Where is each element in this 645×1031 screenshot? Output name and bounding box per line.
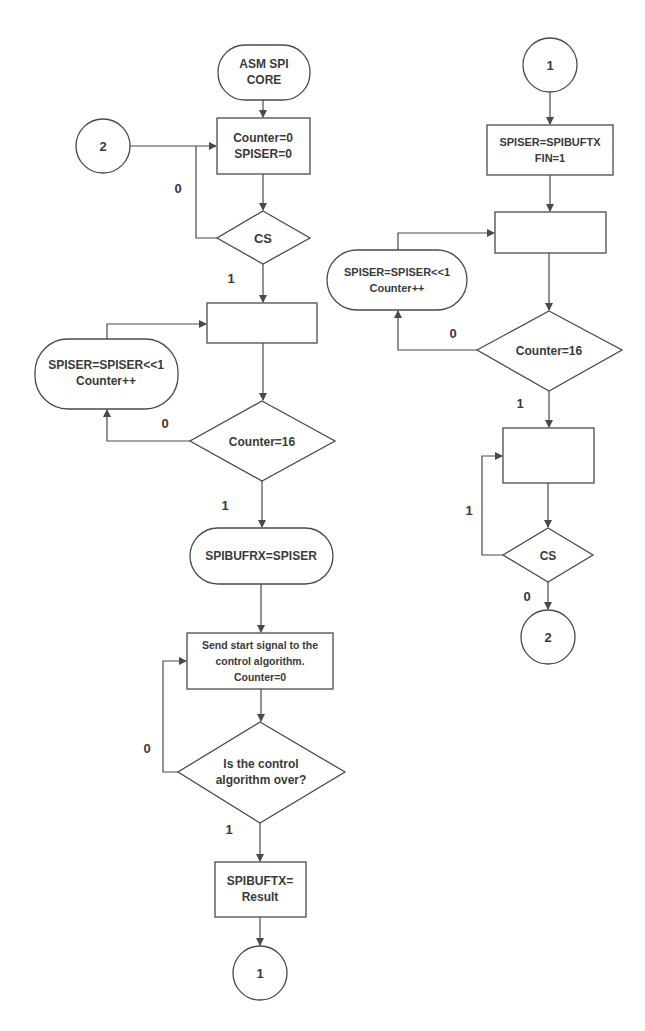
cs-decision-right: CS	[503, 528, 593, 582]
cs-left-no-branch	[196, 146, 217, 238]
counter-right-yes-label: 1	[516, 396, 523, 411]
wait-box-right	[495, 212, 606, 253]
shift-op-right-line-1: SPISER=SPISER<<1	[344, 266, 450, 278]
shift-op-right: SPISER=SPISER<<1 Counter++	[327, 250, 467, 310]
counter-decision-left: Counter=16	[190, 401, 335, 481]
control-decision-line-2: algorithm over?	[216, 773, 307, 787]
store-rx-line-1: SPIBUFRX=SPISER	[205, 549, 317, 563]
counter-decision-right: Counter=16	[477, 311, 622, 391]
arrow-shift-to-wait	[107, 324, 206, 339]
control-no-label: 0	[143, 741, 150, 756]
load-box-line-1: SPISER=SPIBUFTX	[499, 136, 601, 148]
load-box: SPISER=SPIBUFTX FIN=1	[487, 125, 613, 175]
start-terminal: ASM SPI CORE	[218, 45, 310, 100]
connector-2-in: 2	[76, 119, 130, 173]
cs-decision-left: CS	[217, 211, 310, 264]
right-flow: 1 SPISER=SPIBUFTX FIN=1 SPISER=SPISER<<1…	[327, 38, 622, 664]
shift-op-right-line-2: Counter++	[369, 282, 424, 294]
arrow-shift-to-wait-right	[398, 233, 494, 250]
start-signal-line-1: Send start signal to the	[202, 639, 318, 651]
connector-2-out: 2	[521, 610, 575, 664]
counter-decision-right-label: Counter=16	[516, 344, 583, 358]
counter-right-no-branch	[398, 311, 477, 350]
flowchart-canvas: ASM SPI CORE 2 Counter=0 SPISER=0 CS 0 1	[0, 0, 645, 1031]
shift-op-left-line-2: Counter++	[76, 374, 136, 388]
start-signal-box: Send start signal to the control algorit…	[187, 633, 333, 689]
wait-box-left	[207, 303, 317, 343]
counter-right-no-label: 0	[449, 326, 456, 341]
counter-decision-left-label: Counter=16	[229, 435, 296, 449]
connector-1-out: 1	[233, 946, 287, 1000]
left-flow: ASM SPI CORE 2 Counter=0 SPISER=0 CS 0 1	[35, 45, 345, 1000]
counter-left-yes-label: 1	[221, 498, 228, 513]
hold-box	[503, 428, 594, 483]
connector-1-out-label: 1	[256, 966, 263, 981]
result-box-line-2: Result	[242, 890, 279, 904]
shift-op-left-line-1: SPISER=SPISER<<1	[48, 358, 164, 372]
cs-right-yes-label: 1	[465, 503, 472, 518]
result-box-line-1: SPIBUFTX=	[227, 874, 293, 888]
init-box-line-2: SPISER=0	[234, 147, 292, 161]
connector-2-out-label: 2	[544, 630, 551, 645]
cs-left-yes-label: 1	[227, 271, 234, 286]
load-box-line-2: FIN=1	[535, 152, 565, 164]
start-terminal-line-1: ASM SPI	[239, 57, 288, 71]
control-yes-label: 1	[225, 822, 232, 837]
result-box: SPIBUFTX= Result	[215, 862, 306, 917]
init-box: Counter=0 SPISER=0	[217, 118, 310, 174]
shift-op-left: SPISER=SPISER<<1 Counter++	[35, 339, 178, 409]
cs-decision-left-label: CS	[254, 231, 272, 246]
control-decision-line-1: Is the control	[223, 757, 298, 771]
control-decision: Is the control algorithm over?	[178, 722, 345, 823]
init-box-line-1: Counter=0	[233, 131, 293, 145]
cs-right-yes-branch	[482, 456, 503, 555]
connector-2-in-label: 2	[99, 139, 106, 154]
counter-left-no-branch	[107, 410, 190, 441]
connector-1-in-label: 1	[546, 58, 553, 73]
start-terminal-line-2: CORE	[247, 73, 282, 87]
connector-1-in: 1	[523, 38, 577, 92]
start-signal-line-2: control algorithm.	[215, 655, 304, 667]
control-no-branch	[163, 661, 186, 772]
cs-right-no-label: 0	[523, 589, 530, 604]
counter-left-no-label: 0	[161, 416, 168, 431]
cs-left-no-label: 0	[174, 181, 181, 196]
cs-decision-right-label: CS	[540, 549, 557, 563]
store-rx-terminal: SPIBUFRX=SPISER	[190, 528, 333, 584]
start-signal-line-3: Counter=0	[234, 671, 286, 683]
